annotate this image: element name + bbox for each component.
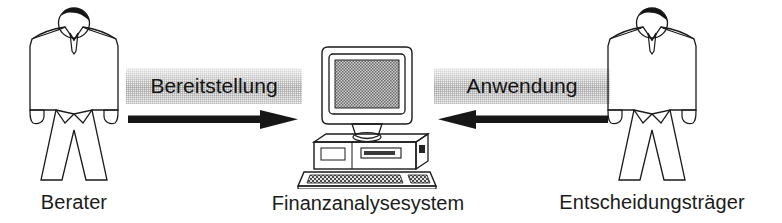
diagram-canvas: Berater Bereitstellung: [0, 0, 782, 223]
node-advisor: Berater: [8, 6, 140, 223]
desktop-computer-icon: [288, 44, 448, 189]
person-figure-icon: [586, 6, 718, 188]
flow-label-usage: Anwendung: [434, 68, 610, 104]
arrow-left-icon: [434, 106, 610, 134]
node-label-system: Finanzanalysesystem: [246, 189, 490, 217]
flow-provision: Bereitstellung: [126, 68, 302, 136]
node-label-decision-maker: Entscheidungsträger: [544, 188, 760, 216]
node-decision-maker: Entscheidungsträger: [586, 6, 718, 223]
flow-usage: Anwendung: [434, 68, 610, 136]
node-system: Finanzanalysesystem: [288, 44, 448, 223]
person-figure-icon: [8, 6, 140, 188]
arrow-right-icon: [126, 106, 302, 134]
flow-label-provision: Bereitstellung: [126, 68, 302, 104]
node-label-advisor: Berater: [8, 188, 140, 216]
